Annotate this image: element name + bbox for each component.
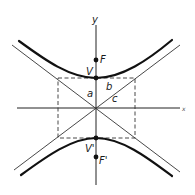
focus-upper-label: F	[100, 54, 106, 65]
vertex-lower-point	[94, 136, 99, 141]
segment-a-label: a	[87, 88, 93, 99]
vertex-lower-label: V'	[85, 143, 95, 154]
focus-upper-point	[94, 58, 99, 63]
focus-lower-point	[94, 155, 99, 160]
segment-b-label: b	[106, 81, 112, 92]
y-axis-label: y	[91, 14, 99, 25]
segment-c-label: c	[112, 93, 118, 104]
vertex-upper-point	[94, 76, 99, 81]
focus-lower-label: F'	[99, 155, 108, 166]
x-axis-label: x	[181, 105, 186, 112]
hyperbola-diagram: y x F V V' F' a b c	[0, 0, 195, 195]
vertex-upper-label: V	[86, 66, 94, 77]
